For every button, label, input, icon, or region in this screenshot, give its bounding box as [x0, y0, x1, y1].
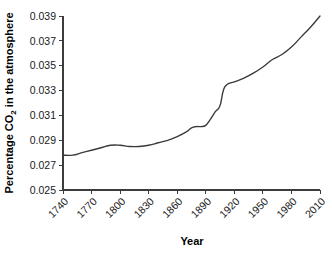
y-axis-title-prefix: Percentage CO — [3, 114, 15, 193]
x-tick-label: 1860 — [160, 195, 185, 220]
x-tick-labels: 1740177018001830186018901920195019802010 — [45, 195, 327, 220]
x-tick-label: 2010 — [302, 195, 327, 220]
y-axis-title-suffix: in the atmosphere — [3, 12, 15, 110]
co2-line-chart: 0.0250.0270.0290.0310.0330.0350.0370.039… — [0, 0, 332, 259]
x-tick-label: 1920 — [217, 195, 242, 220]
x-tick-marks — [63, 190, 320, 194]
y-tick-label: 0.025 — [30, 184, 56, 196]
y-tick-label: 0.037 — [30, 35, 56, 47]
y-tick-label: 0.039 — [30, 10, 56, 22]
x-tick-label: 1950 — [245, 195, 270, 220]
y-axis-title: Percentage CO2 in the atmosphere — [3, 12, 18, 193]
y-tick-label: 0.031 — [30, 109, 56, 121]
y-tick-label: 0.033 — [30, 84, 56, 96]
y-tick-label: 0.029 — [30, 134, 56, 146]
y-tick-marks — [59, 16, 63, 190]
x-tick-label: 1770 — [74, 195, 99, 220]
x-tick-label: 1980 — [274, 195, 299, 220]
x-axis-title: Year — [180, 235, 204, 247]
y-tick-labels: 0.0250.0270.0290.0310.0330.0350.0370.039 — [30, 10, 56, 196]
y-tick-label: 0.035 — [30, 59, 56, 71]
x-tick-label: 1740 — [45, 195, 70, 220]
chart-canvas: 0.0250.0270.0290.0310.0330.0350.0370.039… — [0, 0, 332, 259]
x-tick-label: 1800 — [103, 195, 128, 220]
x-tick-label: 1830 — [131, 195, 156, 220]
x-tick-label: 1890 — [188, 195, 213, 220]
y-tick-label: 0.027 — [30, 159, 56, 171]
data-series-line — [63, 16, 320, 155]
